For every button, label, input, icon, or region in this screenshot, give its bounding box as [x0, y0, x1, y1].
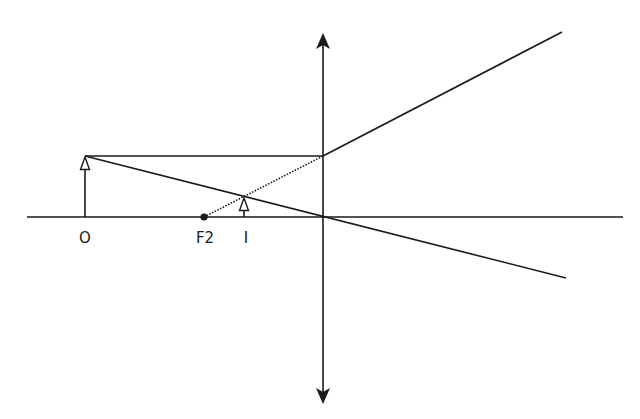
focal-point-label: F2 [196, 229, 214, 247]
virtual-ray-extension [204, 156, 323, 217]
refracted-ray [323, 32, 562, 156]
object-arrowhead-icon [81, 157, 90, 170]
ray-diagram: O F2 I [0, 0, 640, 419]
focal-point-dot [200, 213, 207, 220]
image-label: I [244, 229, 248, 247]
image-arrowhead-icon [240, 198, 249, 211]
object-label: O [79, 229, 91, 247]
